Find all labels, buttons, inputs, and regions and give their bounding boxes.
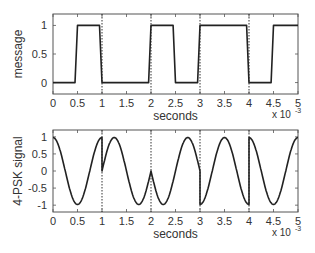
x-tick-label: 0.5 xyxy=(70,97,85,109)
x-tick-label: 3.5 xyxy=(217,215,232,227)
y-axis-label: message xyxy=(11,29,25,78)
x-tick-label: 1.5 xyxy=(119,215,134,227)
x-axis-multiplier-exponent: -3 xyxy=(295,225,301,232)
x-tick-label: 4.5 xyxy=(266,97,281,109)
y-tick-label: 1 xyxy=(41,19,47,31)
x-axis-multiplier-exponent: -3 xyxy=(295,107,301,114)
y-tick-label: -0.5 xyxy=(28,182,47,194)
x-axis-label: seconds xyxy=(153,227,198,241)
x-tick-label: 2 xyxy=(148,215,154,227)
x-tick-label: 1 xyxy=(99,97,105,109)
x-tick-label: 3 xyxy=(197,215,203,227)
x-tick-label: 3 xyxy=(197,97,203,109)
x-axis-multiplier: x 10 xyxy=(272,109,291,120)
x-tick-label: 4 xyxy=(246,97,252,109)
x-tick-label: 2 xyxy=(148,97,154,109)
x-tick-label: 1 xyxy=(99,215,105,227)
psk-signal-plot: 00.511.522.533.544.55-1-0.500.51secondsx… xyxy=(11,130,301,241)
x-tick-label: 0 xyxy=(50,97,56,109)
x-tick-label: 1.5 xyxy=(119,97,134,109)
y-tick-label: 0.5 xyxy=(32,148,47,160)
x-tick-label: 0 xyxy=(50,215,56,227)
x-tick-label: 3.5 xyxy=(217,97,232,109)
x-axis-multiplier: x 10 xyxy=(272,227,291,238)
y-tick-label: 0.5 xyxy=(32,48,47,60)
message-plot: 00.511.522.533.544.5500.51secondsx 10-3m… xyxy=(11,14,301,123)
y-tick-label: 0 xyxy=(41,77,47,89)
y-axis-label: 4-PSK signal xyxy=(11,136,25,205)
x-tick-label: 0.5 xyxy=(70,215,85,227)
x-tick-label: 4 xyxy=(246,215,252,227)
x-tick-label: 2.5 xyxy=(168,97,183,109)
x-axis-label: seconds xyxy=(153,109,198,123)
y-tick-label: 1 xyxy=(41,131,47,143)
x-tick-label: 4.5 xyxy=(266,215,281,227)
y-tick-label: -1 xyxy=(37,199,47,211)
figure: 00.511.522.533.544.5500.51secondsx 10-3m… xyxy=(0,0,315,253)
x-tick-label: 2.5 xyxy=(168,215,183,227)
y-tick-label: 0 xyxy=(41,165,47,177)
